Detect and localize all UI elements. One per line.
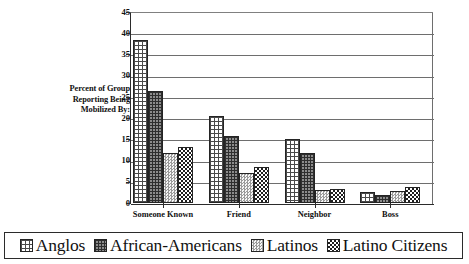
- bar-group: [133, 12, 193, 203]
- bar: [163, 153, 178, 203]
- legend-swatch-icon: [327, 239, 340, 252]
- bar: [148, 91, 163, 203]
- legend-label: Latino Citizens: [343, 236, 447, 255]
- bar: [330, 189, 345, 203]
- bar: [254, 167, 269, 203]
- legend-label: African-Americans: [110, 236, 242, 255]
- legend-label: Latinos: [267, 236, 318, 255]
- x-category-label: Boss: [335, 210, 445, 220]
- bar: [300, 153, 315, 204]
- x-tick-mark: [315, 203, 316, 208]
- bar: [315, 190, 330, 203]
- x-tick-mark: [239, 203, 240, 208]
- legend-item: African-Americans: [94, 236, 242, 255]
- chart-legend: AnglosAfrican-AmericansLatinosLatino Cit…: [4, 232, 463, 259]
- bar-chart-figure: Percent of Group Reporting Being Mobiliz…: [0, 0, 469, 264]
- bar-group: [285, 12, 345, 203]
- x-tick-mark: [390, 203, 391, 208]
- bar: [375, 195, 390, 203]
- bar: [360, 192, 375, 203]
- legend-item: Latino Citizens: [327, 236, 447, 255]
- bar-group: [209, 12, 269, 203]
- x-axis: Someone KnownFriendNeighborBoss: [130, 203, 433, 223]
- bars-layer: [130, 12, 433, 203]
- legend-item: Latinos: [251, 236, 318, 255]
- legend-swatch-icon: [20, 239, 33, 252]
- bar-group: [360, 12, 420, 203]
- x-tick-mark: [163, 203, 164, 208]
- y-axis: 051015202530354045: [101, 12, 130, 203]
- bar: [405, 187, 420, 203]
- bar: [209, 116, 224, 203]
- legend-item: Anglos: [20, 236, 85, 255]
- legend-swatch-icon: [251, 239, 264, 252]
- legend-swatch-icon: [94, 239, 107, 252]
- bar: [224, 136, 239, 203]
- bar: [178, 147, 193, 203]
- bar: [239, 173, 254, 203]
- legend-label: Anglos: [36, 236, 85, 255]
- bar: [285, 139, 300, 203]
- bar: [133, 40, 148, 203]
- bar: [390, 191, 405, 203]
